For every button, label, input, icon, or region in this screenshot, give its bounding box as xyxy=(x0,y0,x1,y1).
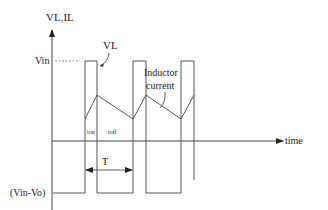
time-axis-label: time xyxy=(285,135,303,146)
inductor-current-label-line2: current xyxy=(146,80,175,91)
ton-label: ton xyxy=(87,129,95,135)
low-level-label: (Vin-Vo) xyxy=(10,187,45,199)
inductor-current-label-line1: Inductor xyxy=(144,67,179,78)
toff-label: toff xyxy=(108,129,117,135)
inductor-current-wave xyxy=(85,95,194,119)
vl-pointer xyxy=(100,53,109,66)
y-axis-label: VL,IL xyxy=(46,11,74,23)
waveform-diagram: VL,IL time Vin (Vin-Vo) VL Inductor curr… xyxy=(0,0,328,210)
vl-label: VL xyxy=(103,39,118,51)
vl-pointer-arrowhead xyxy=(100,63,104,67)
period-label: T xyxy=(102,156,108,167)
vin-level-label: Vin xyxy=(35,55,49,66)
